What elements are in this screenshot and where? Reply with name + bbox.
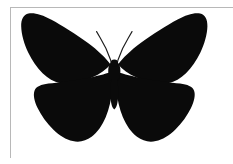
image-canvas	[0, 0, 233, 164]
right-hindwing-shape	[116, 72, 194, 142]
left-forewing-shape	[21, 13, 110, 83]
head-shape	[111, 60, 118, 67]
right-forewing-shape	[118, 13, 207, 83]
left-hindwing-shape	[34, 72, 112, 142]
butterfly-silhouette	[0, 0, 233, 164]
abdomen-shape	[110, 79, 118, 109]
